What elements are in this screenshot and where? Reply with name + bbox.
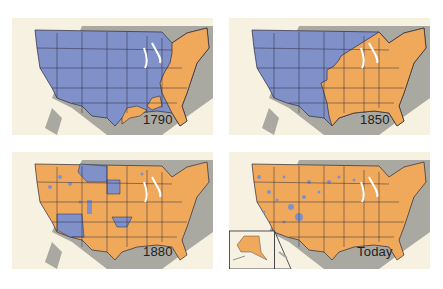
- map-panel-today: Today: [229, 152, 430, 269]
- map-panel-1850: 1850: [229, 18, 430, 135]
- year-label: 1880: [143, 244, 173, 259]
- us-map-today: [229, 152, 430, 269]
- year-label: 1790: [143, 112, 173, 127]
- map-panel-1790: 1790: [12, 18, 213, 135]
- us-map-1850: [229, 18, 430, 135]
- us-map-1880: [12, 152, 213, 269]
- year-label: 1850: [360, 112, 390, 127]
- year-label: Today: [357, 244, 393, 259]
- us-map-1790: [12, 18, 213, 135]
- map-panel-1880: 1880: [12, 152, 213, 269]
